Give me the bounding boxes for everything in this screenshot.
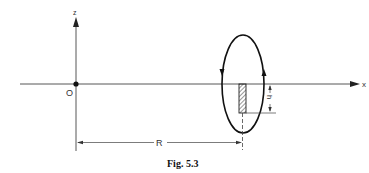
- origin-label: O: [66, 88, 73, 98]
- R-arrow-right-icon: [236, 141, 242, 144]
- x-axis-arrow-icon: [350, 81, 360, 87]
- figure-caption: Fig. 5.3: [167, 158, 198, 169]
- diagram-canvas: x z O h R Fig. 5.3: [0, 0, 369, 173]
- R-arrow-left-icon: [77, 141, 83, 144]
- h-arrow-up-icon: [268, 85, 271, 90]
- loop-arrow-down-icon: [220, 69, 225, 76]
- x-axis-label: x: [362, 80, 366, 89]
- z-axis-label: z: [73, 9, 77, 16]
- z-axis: z: [73, 9, 79, 151]
- z-axis-arrow-icon: [73, 17, 79, 27]
- h-label: h: [265, 95, 274, 99]
- h-arrow-down-icon: [268, 107, 271, 112]
- R-label: R: [156, 138, 163, 148]
- hatched-element: [239, 84, 246, 113]
- origin-dot: [73, 81, 78, 86]
- R-dimension: R: [77, 138, 242, 148]
- loop-arrow-up-icon: [262, 69, 267, 76]
